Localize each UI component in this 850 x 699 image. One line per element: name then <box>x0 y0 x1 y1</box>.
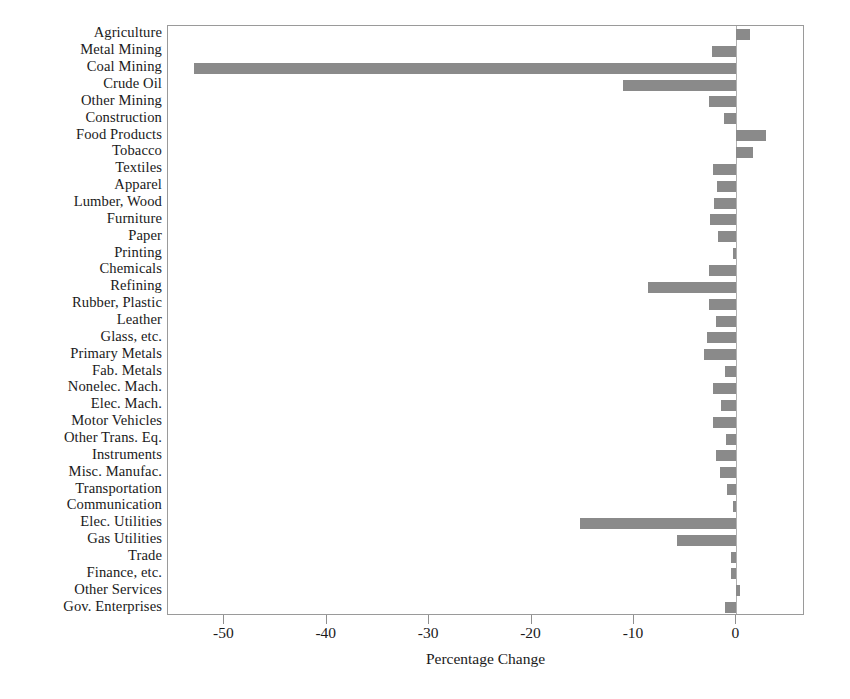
bar <box>713 417 737 428</box>
bar <box>712 46 737 57</box>
y-axis-label: Nonelec. Mach. <box>0 379 162 393</box>
bar <box>580 518 737 529</box>
y-axis-label: Construction <box>0 110 162 124</box>
y-axis-label: Textiles <box>0 160 162 174</box>
y-axis-label: Tobacco <box>0 143 162 157</box>
y-axis-label: Fab. Metals <box>0 363 162 377</box>
bar <box>733 248 736 259</box>
bar <box>733 501 736 512</box>
y-axis-label: Elec. Mach. <box>0 396 162 410</box>
bar <box>717 181 736 192</box>
y-axis-label: Elec. Utilities <box>0 514 162 528</box>
bar <box>714 198 737 209</box>
bar <box>677 535 736 546</box>
bar <box>726 434 736 445</box>
bar <box>704 349 737 360</box>
x-tick-label: -20 <box>520 624 541 642</box>
y-axis-label: Printing <box>0 245 162 259</box>
bar <box>713 383 737 394</box>
bar <box>623 80 737 91</box>
y-axis-label: Finance, etc. <box>0 565 162 579</box>
x-axis-title: Percentage Change <box>167 650 804 668</box>
bar <box>721 400 736 411</box>
y-axis-label: Crude Oil <box>0 76 162 90</box>
y-axis-label: Lumber, Wood <box>0 194 162 208</box>
bar <box>707 332 737 343</box>
bar <box>648 282 736 293</box>
x-tick <box>428 615 429 624</box>
x-tick-label: -50 <box>213 624 234 642</box>
y-axis-label: Chemicals <box>0 261 162 275</box>
bar <box>736 29 749 40</box>
bar <box>709 265 737 276</box>
x-tick <box>633 615 634 624</box>
bar <box>720 467 736 478</box>
y-axis-label: Gas Utilities <box>0 531 162 545</box>
x-tick <box>326 615 327 624</box>
y-axis-label: Apparel <box>0 177 162 191</box>
plot-area <box>167 25 804 615</box>
x-tick-label: -30 <box>418 624 439 642</box>
bar <box>710 214 737 225</box>
y-axis-label: Trade <box>0 548 162 562</box>
bar <box>724 113 736 124</box>
y-axis-label: Transportation <box>0 481 162 495</box>
x-tick <box>223 615 224 624</box>
bar <box>716 316 736 327</box>
y-axis-label: Agriculture <box>0 25 162 39</box>
y-axis-label: Other Trans. Eq. <box>0 430 162 444</box>
bar <box>727 484 736 495</box>
x-tick-label: -10 <box>623 624 644 642</box>
y-axis-label: Communication <box>0 497 162 511</box>
y-axis-label: Instruments <box>0 447 162 461</box>
bar <box>736 585 740 596</box>
y-axis-label: Rubber, Plastic <box>0 295 162 309</box>
y-axis-category-labels: AgricultureMetal MiningCoal MiningCrude … <box>0 25 162 615</box>
y-axis-label: Motor Vehicles <box>0 413 162 427</box>
y-axis-label: Gov. Enterprises <box>0 599 162 613</box>
bar <box>718 231 736 242</box>
bar <box>736 130 766 141</box>
y-axis-label: Other Services <box>0 582 162 596</box>
bar <box>736 147 752 158</box>
x-tick-label: 0 <box>732 624 740 642</box>
y-axis-label: Other Mining <box>0 93 162 107</box>
x-tick <box>531 615 532 624</box>
y-axis-label: Paper <box>0 228 162 242</box>
bar <box>725 602 736 613</box>
bar <box>713 164 737 175</box>
x-tick-label: -40 <box>315 624 336 642</box>
x-axis-tick-labels: -50-40-30-20-100 <box>167 624 804 646</box>
plot-inner <box>168 26 803 614</box>
bar <box>716 450 736 461</box>
y-axis-label: Misc. Manufac. <box>0 464 162 478</box>
y-axis-label: Coal Mining <box>0 59 162 73</box>
bar <box>725 366 736 377</box>
bar <box>709 96 737 107</box>
y-axis-label: Furniture <box>0 211 162 225</box>
bar <box>731 568 736 579</box>
y-axis-label: Refining <box>0 278 162 292</box>
y-axis-label: Metal Mining <box>0 42 162 56</box>
y-axis-label: Primary Metals <box>0 346 162 360</box>
y-axis-label: Leather <box>0 312 162 326</box>
zero-reference-line <box>736 26 737 614</box>
y-axis-label: Glass, etc. <box>0 329 162 343</box>
bar <box>709 299 737 310</box>
bar <box>194 63 737 74</box>
x-tick <box>735 615 736 624</box>
percentage-change-bar-chart: AgricultureMetal MiningCoal MiningCrude … <box>0 0 850 699</box>
bar <box>731 552 736 563</box>
y-axis-label: Food Products <box>0 127 162 141</box>
